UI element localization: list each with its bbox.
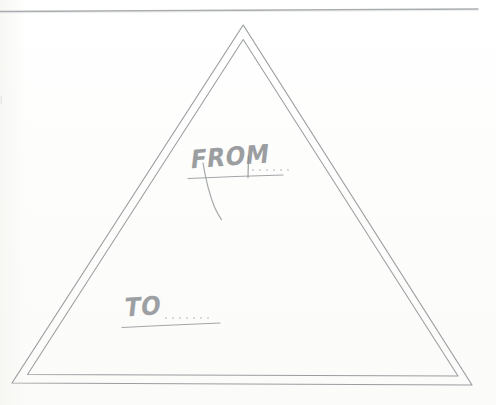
triangle-inner-outline — [28, 40, 459, 377]
from-field-dot-leader — [252, 169, 289, 171]
scanned-page: FROM TO — [0, 0, 496, 405]
drawing-canvas — [0, 0, 496, 405]
paper-top-edge-line — [0, 9, 478, 12]
to-field-underline — [122, 323, 220, 328]
from-field-underline — [188, 175, 283, 178]
to-field-label: TO — [123, 291, 163, 322]
to-field-dot-leader — [165, 317, 209, 319]
triangle-outer-outline — [12, 25, 472, 385]
